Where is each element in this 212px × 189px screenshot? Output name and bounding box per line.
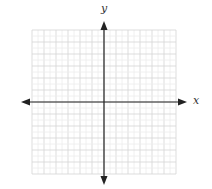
y-axis-arrow-down-icon (101, 176, 108, 185)
y-axis (101, 21, 108, 185)
y-axis-arrow-up-icon (101, 21, 108, 30)
y-axis-label: y (101, 2, 107, 15)
x-axis-label: x (193, 94, 199, 107)
coordinate-plane (0, 0, 212, 189)
x-axis-arrow-right-icon (178, 99, 187, 106)
x-axis-arrow-left-icon (21, 99, 30, 106)
